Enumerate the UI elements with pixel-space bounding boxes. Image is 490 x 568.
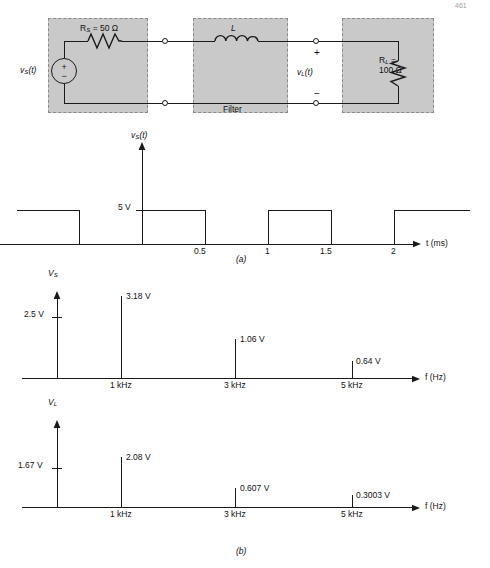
vl-spectrum-line-1khz (121, 457, 122, 508)
vs-waveform-x-unit: (ms) (431, 238, 448, 248)
vs-waveform-x-symbol: t (426, 238, 428, 248)
vs-spectrum-line-3khz (235, 339, 236, 379)
load-voltage-label: vL(t) (297, 68, 313, 78)
vs-spectrum-xtick-label: 3 kHz (224, 381, 246, 391)
waveform-edge-fall (205, 210, 206, 244)
caption-b: (b) (236, 546, 246, 556)
waveform-edge-rise (268, 210, 269, 244)
vs-waveform-xtick-label: 1.5 (320, 247, 332, 257)
inductor-label: L (231, 24, 236, 34)
vl-spectrum-xtick-label: 3 kHz (224, 510, 246, 520)
circuit-diagram: + − vS(t) RS = 50 Ω L Filter vL(t) + − R… (0, 0, 490, 130)
rs-value: = 50 Ω (90, 23, 118, 33)
wire-bottom-left (64, 103, 162, 104)
rl-equals: = (389, 55, 396, 65)
vl-spectrum-value-label: 0.3003 V (356, 491, 390, 501)
vl-spectrum-x-symbol: f (425, 501, 427, 511)
vl-spectrum-line-3khz (235, 488, 236, 508)
vs-waveform-xtick-label: 2 (391, 247, 396, 257)
vs-spectrum-yaxis-label: VS (48, 269, 58, 279)
source-minus-sign: − (62, 72, 67, 81)
terminal-filter-out-bottom (313, 100, 319, 106)
figure-page: 461 + − vS(t) (0, 0, 490, 568)
vl-spectrum-value-label: 2.08 V (126, 453, 151, 463)
vs-spectrum-dc-label: 2.5 V (24, 310, 44, 320)
filter-block-shading (193, 18, 288, 113)
wire-source-top-left (64, 41, 88, 42)
vl-spectrum-value-label: 0.607 V (240, 484, 269, 494)
vs-spectrum-xtick-label: 5 kHz (341, 381, 363, 391)
vl-spectrum-line-5khz (352, 495, 353, 508)
filter-label: Filter (223, 105, 242, 115)
wire-filter-input (168, 41, 215, 42)
vs-spectrum-x-symbol: f (425, 372, 427, 382)
rs-label: RS = 50 Ω (80, 24, 118, 34)
source-waveform-plot: vS(t) 5 V 0.5 1 1.5 2 t (ms) (0, 130, 490, 255)
waveform-edge-fall (79, 210, 80, 244)
vl-spectrum-line-dc (57, 468, 58, 508)
vs-spectrum-line-5khz (352, 361, 353, 379)
wire-filter-output (258, 41, 313, 42)
vs-spectrum-xaxis (22, 378, 413, 379)
vs-spectrum-line-1khz (121, 296, 122, 379)
vs-waveform-y-suffix: (t) (139, 130, 147, 140)
terminal-filter-in-bottom (162, 100, 168, 106)
vs-waveform-amplitude-label: 5 V (118, 203, 131, 213)
waveform-segment-low (205, 244, 268, 245)
terminal-filter-in-top (162, 38, 168, 44)
source-spectrum-plot: VS 2.5 V 3.18 V 1.06 V 0.64 V 1 kHz 3 kH… (0, 265, 490, 390)
wire-bottom-right (319, 103, 399, 104)
vs-waveform-yaxis-label: vS(t) (131, 131, 147, 141)
wire-load-right-lower (398, 86, 399, 104)
waveform-segment-low (79, 244, 142, 245)
waveform-segment-high (17, 210, 79, 211)
terminal-filter-out-top (313, 38, 319, 44)
rl-value: 100 Ω (379, 66, 402, 76)
vl-spectrum-xtick-label: 1 kHz (110, 510, 132, 520)
vs-spectrum-y-subscript: S (54, 271, 58, 278)
vl-plus-sign: + (314, 47, 320, 59)
caption-a: (a) (236, 254, 246, 264)
wire-load-top (319, 41, 399, 42)
wire-source-left-upper (64, 41, 65, 58)
source-voltage-suffix: (t) (28, 65, 36, 75)
vs-waveform-xtick-label: 1 (265, 247, 270, 257)
vs-spectrum-line-dc (57, 317, 58, 379)
vs-spectrum-value-label: 0.64 V (356, 357, 381, 367)
vl-spectrum-x-unit: (Hz) (430, 501, 446, 511)
waveform-segment-high (268, 210, 331, 211)
waveform-edge-rise (142, 210, 143, 244)
vs-waveform-xtick-label: 0.5 (194, 247, 206, 257)
waveform-edge-rise (394, 210, 395, 244)
vl-suffix: (t) (305, 67, 313, 77)
vs-spectrum-xtick-label: 1 kHz (110, 381, 132, 391)
source-voltage-label: vS(t) (20, 66, 36, 76)
load-spectrum-plot: VL 1.67 V 2.08 V 0.607 V 0.3003 V 1 kHz … (0, 394, 490, 519)
vs-spectrum-value-label: 3.18 V (126, 292, 151, 302)
vs-spectrum-x-unit: (Hz) (430, 372, 446, 382)
vl-minus-sign: − (314, 88, 320, 100)
waveform-edge-fall (331, 210, 332, 244)
waveform-segment-high (142, 210, 205, 211)
waveform-segment-high (394, 210, 470, 211)
waveform-segment-low (331, 244, 394, 245)
vs-spectrum-xaxis-label: f (Hz) (425, 373, 446, 383)
wire-source-top-right (122, 41, 162, 42)
vl-spectrum-xtick-label: 5 kHz (341, 510, 363, 520)
vl-spectrum-dc-label: 1.67 V (18, 461, 43, 471)
vl-spectrum-yaxis-label: VL (48, 398, 57, 408)
wire-load-right-upper (398, 41, 399, 61)
vs-waveform-xaxis-label: t (ms) (426, 239, 448, 249)
vl-spectrum-xaxis-label: f (Hz) (425, 502, 446, 512)
vl-spectrum-xaxis (22, 507, 413, 508)
vs-spectrum-value-label: 1.06 V (240, 335, 265, 345)
wire-source-left-lower (64, 84, 65, 104)
vl-spectrum-y-subscript: L (54, 400, 57, 407)
